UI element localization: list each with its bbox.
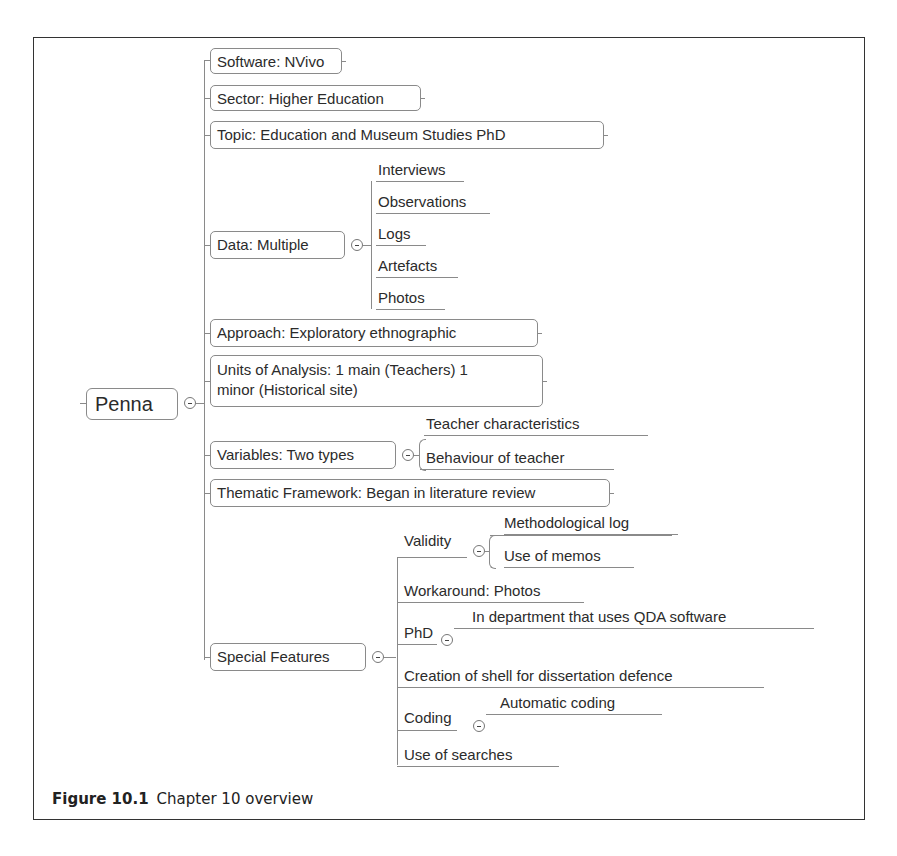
node-units-of-analysis[interactable]: Units of Analysis: 1 main (Teachers) 1 m… bbox=[210, 355, 543, 407]
node-validity[interactable]: Validity bbox=[404, 532, 456, 550]
connector bbox=[610, 493, 614, 494]
leaf-creation-of-shell[interactable]: Creation of shell for dissertation defen… bbox=[397, 667, 764, 688]
connector bbox=[604, 135, 608, 136]
collapse-validity-icon[interactable] bbox=[473, 545, 485, 557]
leaf-observations[interactable]: Observations bbox=[376, 193, 490, 214]
connector bbox=[397, 730, 457, 731]
connector bbox=[397, 644, 437, 645]
connector bbox=[363, 245, 371, 246]
leaf-interviews[interactable]: Interviews bbox=[376, 161, 464, 182]
root-label: Penna bbox=[95, 393, 153, 415]
connector bbox=[384, 657, 396, 658]
leaf-artefacts[interactable]: Artefacts bbox=[376, 257, 458, 278]
leaf-teacher-characteristics[interactable]: Teacher characteristics bbox=[424, 415, 648, 436]
connector bbox=[420, 469, 614, 470]
figure-label: Figure 10.1 bbox=[52, 790, 149, 808]
node-data[interactable]: Data: Multiple bbox=[210, 231, 345, 259]
connector bbox=[543, 381, 547, 382]
connector bbox=[421, 98, 425, 99]
figure-caption-text: Chapter 10 overview bbox=[157, 790, 314, 808]
collapse-data-icon[interactable] bbox=[351, 239, 363, 251]
leaf-methodological-log[interactable]: Methodological log bbox=[504, 514, 678, 535]
validity-bracket bbox=[489, 535, 496, 569]
connector bbox=[538, 333, 542, 334]
connector bbox=[196, 403, 204, 404]
leaf-use-of-searches[interactable]: Use of searches bbox=[397, 746, 559, 767]
collapse-phd-icon[interactable] bbox=[441, 634, 453, 646]
leaf-use-of-memos[interactable]: Use of memos bbox=[504, 547, 634, 568]
leaf-automatic-coding[interactable]: Automatic coding bbox=[486, 694, 662, 715]
collapse-root-icon[interactable] bbox=[184, 397, 196, 409]
leaf-photos[interactable]: Photos bbox=[376, 289, 445, 310]
collapse-coding-icon[interactable] bbox=[473, 720, 485, 732]
collapse-special-features-icon[interactable] bbox=[372, 651, 384, 663]
leaf-logs[interactable]: Logs bbox=[376, 225, 426, 246]
leaf-workaround-photos[interactable]: Workaround: Photos bbox=[397, 582, 584, 603]
node-special-features[interactable]: Special Features bbox=[210, 643, 366, 671]
leaf-qda-software[interactable]: In department that uses QDA software bbox=[454, 608, 814, 629]
data-spine bbox=[371, 181, 372, 309]
node-thematic-framework[interactable]: Thematic Framework: Began in literature … bbox=[210, 479, 610, 507]
collapse-variables-icon[interactable] bbox=[402, 449, 414, 461]
connector bbox=[397, 557, 467, 558]
node-coding[interactable]: Coding bbox=[404, 709, 456, 727]
node-topic[interactable]: Topic: Education and Museum Studies PhD bbox=[210, 121, 604, 149]
connector bbox=[490, 535, 672, 536]
node-variables[interactable]: Variables: Two types bbox=[210, 441, 396, 469]
node-software[interactable]: Software: NVivo bbox=[210, 48, 342, 74]
node-sector[interactable]: Sector: Higher Education bbox=[210, 85, 421, 111]
figure-caption: Figure 10.1Chapter 10 overview bbox=[52, 790, 313, 808]
main-spine bbox=[204, 60, 205, 660]
node-approach[interactable]: Approach: Exploratory ethnographic bbox=[210, 319, 538, 347]
node-phd[interactable]: PhD bbox=[404, 624, 434, 642]
connector bbox=[342, 61, 346, 62]
root-node[interactable]: Penna bbox=[86, 388, 178, 420]
leaf-behaviour-of-teacher[interactable]: Behaviour of teacher bbox=[424, 449, 614, 469]
